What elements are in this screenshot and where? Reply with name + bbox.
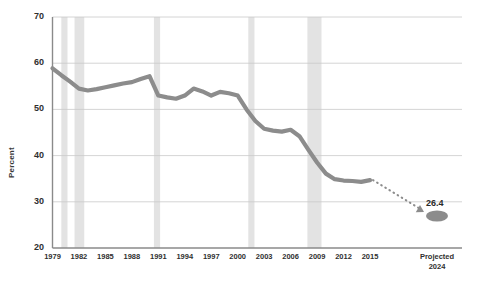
x-axis-tick-label: 1997 — [197, 252, 225, 261]
chart-container: Percent 203040506070 1979198219851988199… — [0, 0, 482, 286]
y-axis-tick-label: 30 — [18, 196, 44, 206]
x-axis-tick-label: 2006 — [277, 252, 305, 261]
y-axis-tick-label: 20 — [18, 242, 44, 252]
y-axis-tick-label: 60 — [18, 57, 44, 67]
projected-text: Projected — [404, 252, 470, 262]
projection-dotted-line — [373, 180, 422, 210]
y-axis-tick-label: 50 — [18, 103, 44, 113]
x-axis-tick-label: 2015 — [356, 252, 384, 261]
projected-year: 2024 — [404, 262, 470, 272]
recession-band — [307, 17, 321, 248]
x-axis-tick-label: 2012 — [330, 252, 358, 261]
x-axis-tick-label: 2003 — [250, 252, 278, 261]
projection-marker — [426, 211, 448, 222]
chart-plot-svg — [0, 0, 482, 286]
recession-band — [61, 17, 67, 248]
x-axis-tick-label: 1985 — [91, 252, 119, 261]
x-axis-tick-label: 2009 — [303, 252, 331, 261]
gridlines-group — [53, 17, 463, 202]
y-axis-tick-label: 40 — [18, 150, 44, 160]
x-axis-tick-label: 2000 — [224, 252, 252, 261]
x-axis-tick-label: 1991 — [144, 252, 172, 261]
y-axis-title: Percent — [7, 108, 16, 178]
x-axis-tick-label: 1982 — [65, 252, 93, 261]
recession-band — [75, 17, 85, 248]
recession-band — [154, 17, 160, 248]
recession-band — [248, 17, 254, 248]
y-axis-tick-label: 70 — [18, 11, 44, 21]
x-axis-tick-label: 1988 — [118, 252, 146, 261]
x-axis-tick-label: 1979 — [39, 252, 67, 261]
x-axis-tick-label: 1994 — [171, 252, 199, 261]
data-series-line — [53, 68, 371, 182]
projection-arrowhead — [416, 205, 424, 212]
projection-value-label: 26.4 — [426, 198, 444, 208]
projected-axis-label: Projected 2024 — [404, 252, 470, 272]
